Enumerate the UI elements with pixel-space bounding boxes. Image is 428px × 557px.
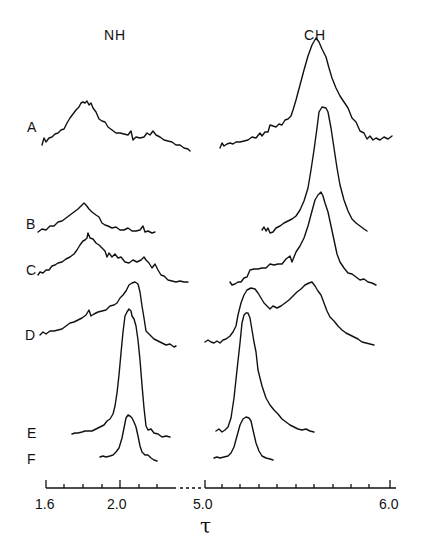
trace-a-nh [42, 101, 190, 151]
trace-e-nh [72, 309, 170, 437]
tick-label-1-6: 1.6 [35, 496, 54, 512]
trace-b-nh [38, 203, 155, 233]
tick-label-5-0: 5.0 [193, 496, 212, 512]
trace-f-ch [214, 417, 273, 460]
trace-d-ch [205, 282, 374, 345]
trace-d-nh [40, 282, 176, 347]
tick-label-6-0: 6.0 [379, 496, 398, 512]
trace-c-nh [38, 233, 188, 282]
spectra-plot [0, 0, 428, 557]
tau-axis [46, 480, 396, 488]
trace-f-nh [100, 415, 157, 461]
trace-e-ch [216, 313, 314, 432]
nmr-spectra-figure: NH CH A B C D E F [0, 0, 428, 557]
tick-label-2-0: 2.0 [107, 496, 126, 512]
tau-axis-symbol: τ [200, 514, 211, 538]
trace-c-ch [230, 192, 376, 285]
trace-a-ch [220, 38, 392, 148]
